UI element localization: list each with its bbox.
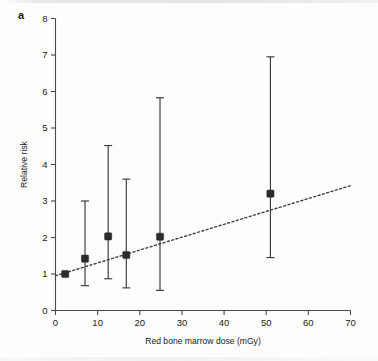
y-axis-title: Relative risk (19, 140, 29, 188)
data-point-marker (156, 233, 163, 240)
y-tick-label: 6 (42, 86, 47, 97)
x-tick-label: 70 (345, 317, 356, 328)
y-tick-label: 0 (42, 305, 47, 316)
data-point-marker (62, 270, 69, 277)
figure-panel-a: a 012345678 010203040506070 Red bone mar… (0, 0, 378, 361)
x-tick-label: 30 (177, 317, 188, 328)
data-markers-group (62, 190, 274, 278)
data-point-marker (105, 233, 112, 240)
y-tick-label: 7 (42, 49, 47, 60)
x-tick-label: 50 (261, 317, 272, 328)
y-tick-label: 2 (42, 232, 47, 243)
data-point-marker (267, 190, 274, 197)
x-tick-label: 40 (219, 317, 230, 328)
y-axis-ticks: 012345678 (42, 13, 55, 316)
x-tick-label: 60 (303, 317, 314, 328)
x-axis-ticks: 010203040506070 (53, 311, 356, 328)
y-tick-label: 3 (42, 195, 47, 206)
y-tick-label: 1 (42, 268, 47, 279)
x-tick-label: 20 (134, 317, 145, 328)
x-tick-label: 0 (53, 317, 58, 328)
data-point-marker (81, 255, 88, 262)
y-tick-label: 4 (42, 159, 47, 170)
y-tick-label: 8 (42, 13, 47, 24)
trend-line-group (56, 186, 351, 276)
x-axis-title: Red bone marrow dose (mGy) (145, 336, 261, 346)
data-point-marker (123, 251, 130, 258)
trend-line (56, 186, 351, 276)
scatter-plot: 012345678 010203040506070 Red bone marro… (0, 0, 378, 361)
plot-axes (56, 19, 351, 311)
y-tick-label: 5 (42, 122, 47, 133)
x-tick-label: 10 (92, 317, 103, 328)
error-bars-group (81, 57, 274, 291)
